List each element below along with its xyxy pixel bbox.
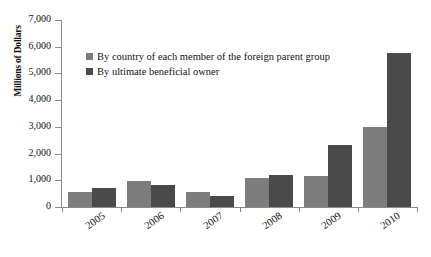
bar xyxy=(304,176,328,207)
x-axis-label: 2010 xyxy=(369,203,413,238)
x-axis-label: 2005 xyxy=(73,203,117,238)
legend-label: By ultimate beneficial owner xyxy=(97,66,219,77)
bar xyxy=(387,53,411,207)
x-tick xyxy=(358,207,359,212)
y-tick: 7,000 xyxy=(55,20,62,21)
legend-swatch-icon xyxy=(86,53,93,60)
x-axis-label: 2006 xyxy=(132,203,176,238)
bar-group xyxy=(245,20,293,207)
legend-item: By country of each member of the foreign… xyxy=(86,50,330,63)
legend-item: By ultimate beneficial owner xyxy=(86,65,330,78)
y-tick-label: 4,000 xyxy=(29,93,52,104)
bar xyxy=(127,181,151,207)
bar-group xyxy=(186,20,234,207)
bar xyxy=(363,127,387,207)
y-tick-label: 3,000 xyxy=(29,120,52,131)
bar xyxy=(68,192,92,207)
bar-group xyxy=(363,20,411,207)
chart-legend: By country of each member of the foreign… xyxy=(86,50,330,80)
y-tick-label: 6,000 xyxy=(29,40,52,51)
y-tick: 2,000 xyxy=(55,154,62,155)
x-tick xyxy=(417,207,418,212)
y-tick-label: 1,000 xyxy=(29,173,52,184)
x-tick xyxy=(62,207,63,212)
bar xyxy=(186,192,210,207)
y-tick: 0 xyxy=(55,207,62,208)
y-tick-label: 5,000 xyxy=(29,66,52,77)
y-tick: 5,000 xyxy=(55,73,62,74)
y-tick: 4,000 xyxy=(55,100,62,101)
x-axis-label: 2009 xyxy=(309,203,353,238)
y-tick: 1,000 xyxy=(55,180,62,181)
y-tick-label: 2,000 xyxy=(29,147,52,158)
x-axis-label: 2008 xyxy=(250,203,294,238)
x-axis-label: 2007 xyxy=(191,203,235,238)
bar xyxy=(245,178,269,207)
bar xyxy=(328,145,352,207)
bar-group xyxy=(127,20,175,207)
legend-label: By country of each member of the foreign… xyxy=(97,51,330,62)
x-tick xyxy=(299,207,300,212)
x-tick xyxy=(121,207,122,212)
y-tick-label: 0 xyxy=(46,200,51,211)
bar-chart: Millions of Dollars 01,0002,0003,0004,00… xyxy=(0,0,431,257)
legend-swatch-icon xyxy=(86,68,93,75)
x-tick xyxy=(240,207,241,212)
bar-group xyxy=(304,20,352,207)
bar xyxy=(269,175,293,207)
y-tick: 6,000 xyxy=(55,47,62,48)
bar-group xyxy=(68,20,116,207)
y-axis-title: Millions of Dollars xyxy=(13,1,23,121)
y-tick: 3,000 xyxy=(55,127,62,128)
y-tick-label: 7,000 xyxy=(29,13,52,24)
plot-area xyxy=(62,20,417,207)
x-tick xyxy=(180,207,181,212)
